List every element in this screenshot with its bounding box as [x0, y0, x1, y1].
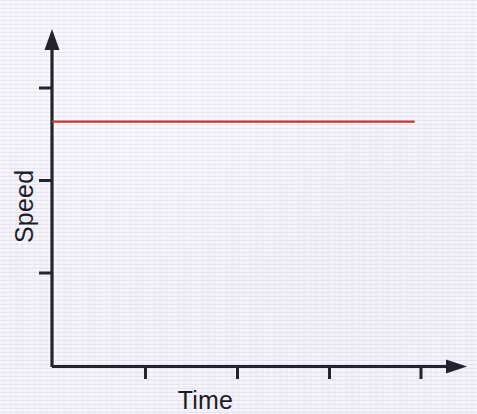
- x-axis-arrow-icon: [446, 360, 467, 374]
- chart-figure: Speed Time: [0, 0, 477, 414]
- y-axis-label: Speed: [10, 170, 39, 243]
- plot-area: [0, 0, 477, 414]
- x-axis-label: Time: [0, 386, 477, 414]
- y-axis-arrow-icon: [45, 29, 60, 50]
